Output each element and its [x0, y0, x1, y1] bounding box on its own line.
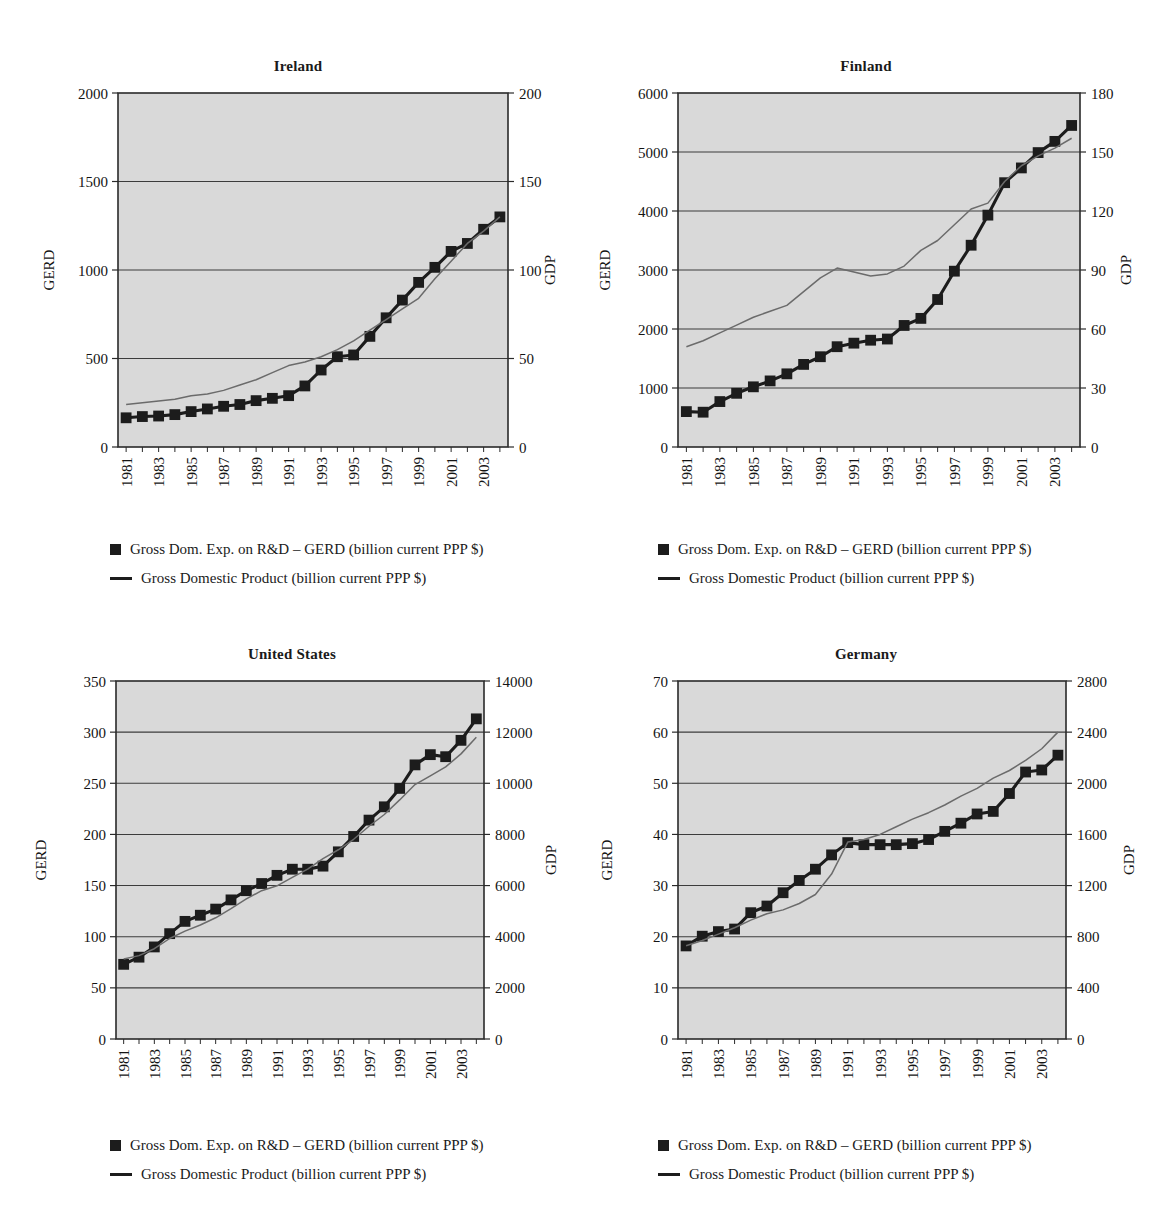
data-point-marker: [966, 240, 977, 251]
x-axis-tick-label: 1993: [314, 457, 330, 487]
data-point-marker: [1066, 120, 1077, 131]
x-axis-tick-label: 1999: [411, 457, 427, 487]
y2-axis-tick-label: 10000: [495, 776, 533, 792]
legend-row-gdp: Gross Domestic Product (billion current …: [110, 1160, 568, 1189]
x-axis-tick-label: 2001: [444, 457, 460, 487]
data-point-marker: [988, 806, 999, 817]
data-point-marker: [939, 826, 950, 837]
x-axis-tick-label: 2001: [423, 1049, 439, 1079]
y2-axis-tick-label: 14000: [495, 674, 533, 690]
legend-label-gerd: Gross Dom. Exp. on R&D – GERD (billion c…: [678, 1131, 1032, 1160]
x-axis-tick-label: 1997: [937, 1049, 953, 1080]
data-point-marker: [256, 878, 267, 889]
data-point-marker: [681, 406, 692, 417]
data-point-marker: [815, 351, 826, 362]
y2-axis-tick-label: 50: [519, 351, 534, 367]
solid-line-swatch-icon: [110, 577, 132, 580]
y2-axis-tick-label: 2400: [1077, 725, 1107, 741]
chart-svg-finland: 0100020003000400050006000030609012015018…: [586, 79, 1146, 519]
y-axis-tick-label: 200: [84, 827, 107, 843]
solid-line-swatch-icon: [110, 1173, 132, 1176]
data-point-marker: [1004, 788, 1015, 799]
data-point-marker: [316, 365, 327, 376]
x-axis-tick-label: 1987: [776, 1049, 792, 1080]
legend-finland: Gross Dom. Exp. on R&D – GERD (billion c…: [586, 535, 1146, 594]
x-axis-tick-label: 1987: [779, 457, 795, 488]
data-point-marker: [972, 809, 983, 820]
x-axis-tick-label: 1989: [808, 1049, 824, 1079]
legend-row-gdp: Gross Domestic Product (billion current …: [658, 1160, 1146, 1189]
legend-row-gdp: Gross Domestic Product (billion current …: [658, 564, 1146, 593]
x-axis-tick-label: 1995: [346, 457, 362, 487]
legend-row-gerd: Gross Dom. Exp. on R&D – GERD (billion c…: [110, 1131, 568, 1160]
x-axis-tick-label: 1991: [840, 1049, 856, 1079]
y-axis-tick-label: 10: [653, 980, 668, 996]
data-point-marker: [440, 751, 451, 762]
data-point-marker: [907, 838, 918, 849]
data-point-marker: [394, 783, 405, 794]
x-axis-tick-label: 1991: [270, 1049, 286, 1079]
data-point-marker: [180, 916, 191, 927]
y2-axis-tick-label: 4000: [495, 929, 525, 945]
legend-row-gerd: Gross Dom. Exp. on R&D – GERD (billion c…: [658, 535, 1146, 564]
legend-row-gerd: Gross Dom. Exp. on R&D – GERD (billion c…: [658, 1131, 1146, 1160]
chart-svg-united-states: 0501001502002503003500200040006000800010…: [16, 667, 568, 1115]
data-point-marker: [762, 901, 773, 912]
x-axis-tick-label: 1999: [980, 457, 996, 487]
x-axis-tick-label: 1991: [846, 457, 862, 487]
data-point-marker: [748, 381, 759, 392]
data-point-marker: [186, 406, 197, 417]
data-point-marker: [778, 887, 789, 898]
y-axis-tick-label: 6000: [638, 86, 668, 102]
y2-axis-tick-label: 400: [1077, 980, 1100, 996]
x-axis-tick-label: 1999: [970, 1049, 986, 1079]
data-point-marker: [932, 294, 943, 305]
chart-panel-germany: Germany 01020304050607004008001200160020…: [586, 646, 1146, 1190]
right-axis-title: GDP: [542, 255, 558, 285]
data-point-marker: [781, 368, 792, 379]
data-point-marker: [287, 864, 298, 875]
filled-square-marker-icon: [658, 544, 669, 555]
x-axis-tick-label: 1993: [880, 457, 896, 487]
y-axis-tick-label: 0: [661, 1032, 669, 1048]
x-axis-tick-label: 1983: [712, 457, 728, 487]
x-axis-tick-label: 1983: [147, 1049, 163, 1079]
y-axis-tick-label: 0: [661, 440, 669, 456]
x-axis-tick-label: 1997: [947, 457, 963, 488]
chart-panel-united-states: United States 05010015020025030035002000…: [16, 646, 568, 1190]
data-point-marker: [272, 870, 283, 881]
data-point-marker: [267, 393, 278, 404]
x-axis-tick-label: 1989: [239, 1049, 255, 1079]
x-axis-tick-label: 1985: [743, 1049, 759, 1079]
x-axis-tick-label: 1989: [249, 457, 265, 487]
x-axis-tick-label: 1981: [679, 457, 695, 487]
y2-axis-tick-label: 6000: [495, 878, 525, 894]
y2-axis-tick-label: 60: [1091, 322, 1106, 338]
y-axis-tick-label: 1000: [638, 381, 668, 397]
data-point-marker: [875, 839, 886, 850]
plot-area-background: [678, 681, 1066, 1039]
legend-label-gerd: Gross Dom. Exp. on R&D – GERD (billion c…: [130, 535, 484, 564]
right-axis-title: GDP: [1118, 255, 1134, 285]
y-axis-tick-label: 500: [86, 351, 109, 367]
x-axis-tick-label: 1983: [711, 1049, 727, 1079]
left-axis-title: GERD: [33, 839, 49, 880]
y2-axis-tick-label: 180: [1091, 86, 1114, 102]
x-axis-tick-label: 2003: [476, 457, 492, 487]
x-axis-tick-label: 1981: [116, 1049, 132, 1079]
legend-label-gdp: Gross Domestic Product (billion current …: [141, 1160, 426, 1189]
y2-axis-tick-label: 0: [495, 1032, 503, 1048]
panel-title-united-states: United States: [16, 646, 568, 663]
chart-canvas-germany: 0102030405060700400800120016002000240028…: [586, 667, 1146, 1115]
data-point-marker: [899, 320, 910, 331]
chart-canvas-ireland: 0500100015002000050100150200198119831985…: [28, 79, 568, 519]
panel-title-finland: Finland: [586, 58, 1146, 75]
data-point-marker: [318, 861, 329, 872]
y-axis-tick-label: 3000: [638, 263, 668, 279]
data-point-marker: [397, 295, 408, 306]
data-point-marker: [471, 713, 482, 724]
x-axis-tick-label: 1995: [905, 1049, 921, 1079]
x-axis-tick-label: 1999: [392, 1049, 408, 1079]
y-axis-tick-label: 5000: [638, 145, 668, 161]
data-point-marker: [923, 834, 934, 845]
